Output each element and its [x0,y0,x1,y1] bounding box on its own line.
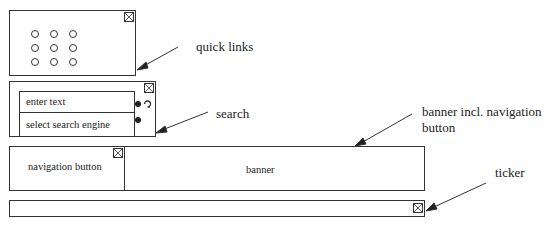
radio-dot-icon[interactable] [135,101,141,107]
close-x-icon[interactable] [124,12,134,22]
annotation-banner-line2: button [422,121,455,135]
close-x-icon[interactable] [113,148,123,158]
quick-links-widget [9,10,136,76]
annotation-banner-line1: banner incl. navigation [422,105,542,119]
quick-link-circle-icon[interactable] [69,58,77,66]
ticker [9,200,425,217]
navigation-button-label: navigation button [28,161,102,172]
quick-link-circle-icon[interactable] [50,30,58,38]
refresh-icon[interactable] [143,100,152,108]
quick-link-circle-icon[interactable] [31,30,39,38]
annotation-search: search [216,107,249,121]
annotation-quick-links: quick links [196,40,253,54]
quick-link-circle-icon[interactable] [69,44,77,52]
banner-label: banner [246,164,275,175]
quick-link-circle-icon[interactable] [31,58,39,66]
quick-link-circle-icon[interactable] [50,58,58,66]
quick-link-circle-icon[interactable] [69,30,77,38]
quick-link-circle-icon[interactable] [50,44,58,52]
search-engine-select[interactable]: select search engine [19,112,135,137]
close-x-icon[interactable] [144,83,154,93]
annotation-ticker: ticker [495,166,525,180]
radio-dot-icon[interactable] [135,117,141,123]
search-text-field[interactable]: enter text [19,91,135,113]
close-x-icon[interactable] [413,203,423,213]
quick-link-circle-icon[interactable] [31,44,39,52]
